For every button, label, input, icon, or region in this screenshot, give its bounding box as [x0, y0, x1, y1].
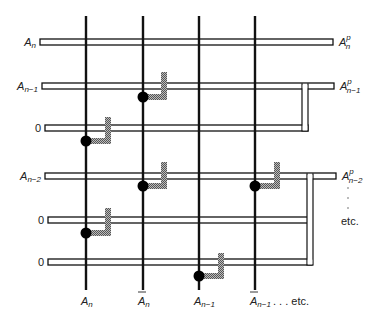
- row-rail: [48, 259, 312, 265]
- row-input-label: An−1: [16, 80, 38, 94]
- row-input-label: 0: [38, 214, 44, 226]
- hatched-connector-vertical: [161, 72, 167, 100]
- connection-dot: [138, 92, 149, 103]
- row-rail: [45, 173, 336, 179]
- row-input-label: 0: [35, 122, 41, 134]
- logic-array-diagram: AnApnAn−1Apn−10An−2Apn−200AnAnAn−1An−1. …: [0, 0, 380, 322]
- continuation-dot: [347, 187, 348, 188]
- connection-dot: [138, 181, 149, 192]
- connection-dot: [250, 181, 261, 192]
- connection-dot: [81, 228, 92, 239]
- hatched-connector-vertical: [218, 253, 224, 279]
- feedback-link: [307, 174, 313, 265]
- right-trailer: etc.: [341, 215, 359, 227]
- row-output-label: Apn−1: [339, 77, 360, 95]
- column-label: An−1: [193, 295, 215, 309]
- row-rail: [40, 39, 333, 45]
- row-rail: [48, 217, 312, 223]
- row-output-label: Apn−2: [341, 167, 363, 185]
- continuation-dot: [347, 207, 348, 208]
- feedback-link: [302, 84, 308, 131]
- hatched-connector-vertical: [105, 208, 111, 236]
- connection-dot: [81, 136, 92, 147]
- hatched-connector-vertical: [161, 162, 167, 189]
- column-label: An: [137, 295, 150, 309]
- row-output-label: Apn: [338, 33, 351, 51]
- hatched-connector-vertical: [274, 162, 280, 189]
- connection-dot: [194, 271, 205, 282]
- continuation-dot: [347, 197, 348, 198]
- column-lines: [86, 16, 255, 290]
- row-rail: [45, 125, 308, 131]
- labels: AnApnAn−1Apn−10An−2Apn−200AnAnAn−1An−1. …: [16, 33, 363, 309]
- row-input-label: An: [23, 36, 36, 50]
- column-label: An: [80, 295, 93, 309]
- hatched-connector-vertical: [105, 117, 111, 144]
- column-trailer: . . . etc.: [273, 295, 309, 307]
- row-input-label: 0: [38, 256, 44, 268]
- row-input-label: An−2: [19, 170, 41, 184]
- column-label: An−1: [249, 295, 271, 309]
